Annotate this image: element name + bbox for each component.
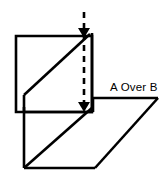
plane-a-group	[16, 34, 92, 112]
plane-a-diagonal	[24, 34, 90, 95]
a-over-b-label: A Over B	[110, 81, 158, 93]
depth-axis-group	[78, 12, 90, 112]
diagram-canvas: A Over B	[0, 0, 167, 176]
plane-b-diagonal	[24, 107, 93, 168]
a-over-b-diagram: A Over B	[0, 0, 167, 176]
plane-b-right-edge	[95, 98, 158, 168]
plane-a-square-outline	[16, 36, 92, 112]
